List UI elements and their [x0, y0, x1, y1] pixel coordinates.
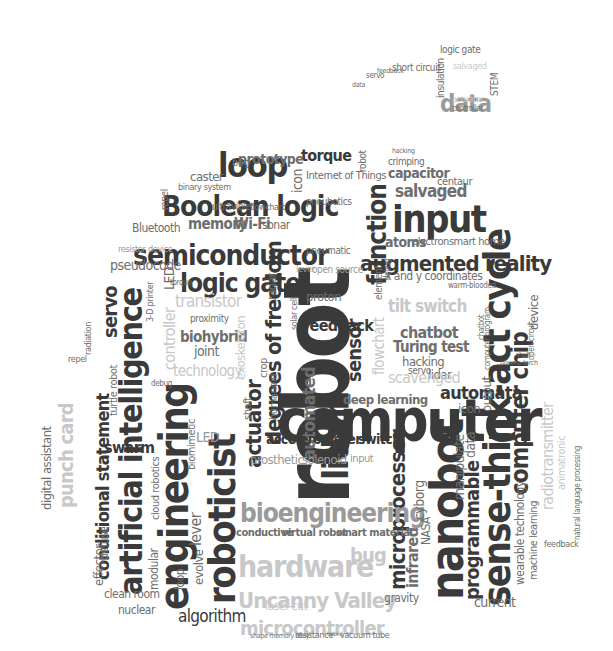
- cloud-word: machine learning: [528, 501, 539, 580]
- cloud-word: 3-D printer: [146, 282, 155, 322]
- cloud-word: deep learning: [343, 393, 428, 406]
- cloud-word: icon: [458, 402, 480, 415]
- cloud-word: binary system: [178, 183, 231, 192]
- cloud-word: Internet of Things: [306, 170, 386, 181]
- cloud-word: centaur: [437, 176, 472, 187]
- cloud-word: punch card: [56, 403, 76, 508]
- cloud-word: accelerometer: [266, 432, 361, 446]
- cloud-word: warm-blooded: [448, 282, 496, 290]
- cloud-word: smart material: [336, 527, 413, 538]
- cloud-word: ultraviolet: [212, 202, 253, 212]
- cloud-word: icon: [290, 169, 304, 193]
- cloud-word: debug: [384, 259, 392, 280]
- cloud-word: turtle robot: [108, 365, 119, 416]
- cloud-word: repel: [160, 189, 170, 210]
- cloud-word: STEM: [490, 73, 500, 96]
- cloud-word: evolve: [192, 549, 205, 585]
- cloud-word: defuse: [98, 526, 110, 560]
- cloud-word: device: [148, 245, 172, 254]
- cloud-word: computer program: [484, 307, 492, 370]
- cloud-word: exoskeleton: [234, 316, 247, 380]
- cloud-word: lever: [188, 513, 204, 546]
- cloud-word: radiotransmitter: [540, 402, 556, 510]
- cloud-word: debug: [151, 380, 172, 388]
- cloud-word: animatronic: [556, 436, 567, 490]
- cloud-word: proximity: [190, 314, 229, 324]
- cloud-word: resistor: [118, 245, 145, 254]
- cloud-word: vacuum tube: [340, 631, 389, 640]
- cloud-word: electronsmart home: [412, 236, 505, 247]
- cloud-word: insulation: [436, 58, 446, 98]
- cloud-word: swarm: [104, 440, 154, 456]
- cloud-word: robot: [358, 150, 368, 172]
- cloud-word: hacking: [392, 148, 415, 155]
- cloud-word: technology: [173, 364, 242, 379]
- cloud-word: tilt switch: [388, 298, 467, 315]
- cloud-word: proton: [306, 290, 341, 303]
- cloud-word: feedback: [544, 540, 578, 549]
- cloud-word: wearable technology: [514, 481, 526, 585]
- cloud-word: output: [480, 377, 493, 412]
- cloud-word: lever: [296, 265, 315, 274]
- cloud-word: switch: [358, 432, 401, 446]
- cloud-word: pneumatic: [306, 246, 350, 256]
- cloud-word: laser-cut: [265, 600, 307, 612]
- cloud-word: NASA: [420, 517, 432, 545]
- cloud-word: prosthetic: [250, 453, 303, 466]
- cloud-word: current: [474, 595, 515, 609]
- cloud-word: radiation: [84, 322, 93, 355]
- cloud-word: Uncanny Valley: [238, 590, 396, 612]
- cloud-word: Bluetooth: [132, 222, 180, 234]
- cloud-word: natural language processing: [574, 446, 582, 540]
- cloud-word: feedback: [304, 318, 373, 334]
- cloud-word: actuator: [452, 95, 483, 104]
- cloud-word: torque: [301, 148, 351, 164]
- cloud-word: data: [463, 432, 477, 458]
- cloud-word: input: [350, 453, 373, 464]
- cloud-word: data: [352, 82, 365, 89]
- cloud-word: flowchart: [372, 318, 387, 375]
- cloud-word: solenoid: [302, 453, 347, 466]
- cloud-word: roboticist: [203, 434, 241, 604]
- cloud-word: pneubotics: [306, 197, 352, 207]
- cloud-word: transistor: [175, 293, 241, 310]
- cloud-word: radar: [266, 273, 278, 300]
- cloud-word: bug: [350, 545, 386, 565]
- cloud-word: controller: [162, 308, 178, 370]
- cloud-word: salvaged: [453, 62, 487, 71]
- cloud-word: servo: [100, 286, 120, 338]
- cloud-word: logic gate: [440, 45, 480, 55]
- cloud-word: shaft: [242, 398, 253, 420]
- cloud-word: modular: [148, 548, 160, 590]
- cloud-word: humanoid: [268, 374, 279, 420]
- cloud-word: crimping: [388, 157, 424, 167]
- cloud-word: plasma torch: [500, 360, 538, 367]
- cloud-word: torque: [170, 279, 192, 287]
- cloud-word: algorithm: [178, 608, 246, 625]
- cloud-word: Turing test: [393, 340, 469, 355]
- cloud-word: controller: [452, 105, 483, 113]
- cloud-word: servo: [408, 366, 431, 376]
- cloud-word: sonar: [262, 219, 290, 231]
- cloud-word: flowchart: [250, 203, 284, 212]
- word-cloud: robotcomputernanobotsense-think-act cycl…: [0, 0, 613, 651]
- cloud-word: shaft: [516, 352, 530, 359]
- cloud-word: nuclear: [118, 604, 155, 616]
- cloud-word: repel: [68, 355, 87, 364]
- cloud-word: bioengineering: [240, 500, 425, 526]
- cloud-word: input: [392, 200, 486, 238]
- cloud-word: LED: [196, 430, 219, 444]
- cloud-word: joint: [194, 344, 219, 358]
- cloud-word: cyborg: [412, 480, 426, 520]
- cloud-word: servo: [366, 72, 384, 80]
- cloud-word: bug: [232, 157, 250, 168]
- cloud-word: loop: [174, 569, 186, 590]
- cloud-word: solar cell: [290, 297, 299, 330]
- cloud-word: digital assistant: [40, 426, 53, 510]
- cloud-word: cloud robotics: [150, 457, 161, 520]
- cloud-word: open source: [312, 265, 363, 275]
- cloud-word: gravity: [384, 592, 419, 604]
